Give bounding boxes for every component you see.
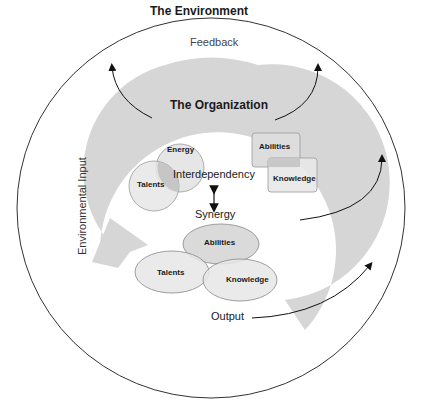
synergy-label: Synergy: [195, 208, 235, 220]
talents-label: Talents: [137, 180, 164, 189]
lower-knowledge-label: Knowledge: [226, 275, 269, 284]
output-label: Output: [211, 310, 244, 322]
knowledge-label: Knowledge: [273, 174, 316, 183]
abilities-label: Abilities: [259, 142, 290, 151]
interdependency-label: Interdependency: [173, 168, 255, 180]
energy-label: Energy: [167, 145, 194, 154]
organization-title: The Organization: [170, 98, 268, 112]
diagram-canvas: [0, 0, 422, 400]
feedback-label: Feedback: [190, 36, 238, 48]
environmental-input-label: Environmental Input: [76, 157, 88, 255]
lower-abilities-label: Abilities: [204, 238, 235, 247]
abilities-knowledge-overlap: [268, 158, 300, 167]
environment-title: The Environment: [150, 4, 248, 18]
lower-talents-label: Talents: [157, 268, 184, 277]
